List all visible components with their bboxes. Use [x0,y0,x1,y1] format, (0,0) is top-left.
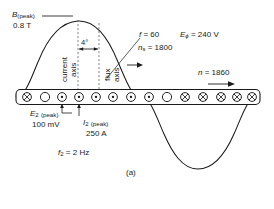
i2-peak-label: I2 (peak) [83,118,108,130]
supply-frequency-label: f = 60 [139,30,159,40]
i2-value: 250 A [86,129,106,139]
rotor-speed-arrow [208,81,235,87]
synchronous-field-direction-arrow [127,62,143,67]
n-symbol: n [198,68,202,77]
flux-axis-label-line2: axis [112,68,121,82]
rotor-slot-cross [248,93,257,102]
f-symbol: f [139,30,141,39]
b-peak-label: B(peak) [12,10,35,20]
flux-axis-label-2: axis [112,58,121,92]
current-axis-label-line1: current [60,58,69,83]
rotor-slot-dot [75,93,84,102]
rotor-slot-dot [109,93,118,102]
diagram-canvas [0,0,274,209]
rotor-slot-cross [217,93,226,102]
current-axis-label-line2: axis [69,63,78,77]
synchronous-speed-label: ns = 1800 [138,43,172,55]
ns-value: = 1800 [148,43,173,52]
e2-subscript: 2 [35,112,38,118]
flux-axis-label: flux [103,58,112,92]
current-axis-label: current [60,48,69,92]
ephi-subscript: ϕ [185,33,188,39]
ephi-value: = 240 V [191,30,219,39]
slip-frequency-label: f2 = 2 Hz [58,148,89,160]
rotor-slot-cross [23,93,32,102]
figure-caption: (a) [126,168,136,178]
f2-subscript: 2 [60,151,63,157]
rotor-slot-dot [92,93,101,102]
f2-value: = 2 Hz [66,148,89,157]
i2-leader-line [77,104,81,116]
i2-peak-suffix: (peak) [91,120,109,127]
f-value: = 60 [143,30,159,39]
b-peak-subscript: (peak) [17,12,35,19]
e2-value: 100 mV [32,120,60,130]
rotor-slot-empty [40,92,49,101]
e2-peak-label: E2 (peak) [30,109,58,121]
phase-voltage-label: Eϕ = 240 V [180,30,219,42]
rotor-slot-dot [145,93,154,102]
flux-diagram-figure: B(peak) 0.8 T 4° current axis flux axis … [0,0,274,209]
n-value: = 1860 [205,68,230,77]
flux-axis-label-line1: flux [103,69,112,81]
rotor-slot-cross [199,93,208,102]
angle-arrow-4deg [79,47,98,51]
current-axis-label-2: axis [69,48,78,92]
rotor-slot-cross [181,93,190,102]
ns-subscript: s [142,46,145,52]
rotor-speed-label: n = 1860 [198,68,229,78]
angle-label: 4° [81,38,88,48]
b-peak-value: 0.8 T [13,21,31,31]
rotor-slot-dot [127,93,136,102]
e2-peak-suffix: (peak) [41,111,59,118]
rotor-slot-dot [58,93,67,102]
rotor-slot-empty [162,92,171,101]
e2-leader-line [60,104,72,113]
i2-subscript: 2 [85,121,88,127]
rotor-slot-cross [233,93,242,102]
